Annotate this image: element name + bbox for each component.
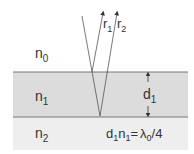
label-r2: r2 — [117, 16, 126, 34]
reflected-ray-r1 — [92, 13, 103, 72]
label-r1: r1 — [103, 16, 112, 34]
label-n0: n0 — [35, 45, 49, 64]
thin-film-diagram: n0 n1 n2 r1 r2 d1 d1n1=λ0/4 — [0, 0, 194, 154]
